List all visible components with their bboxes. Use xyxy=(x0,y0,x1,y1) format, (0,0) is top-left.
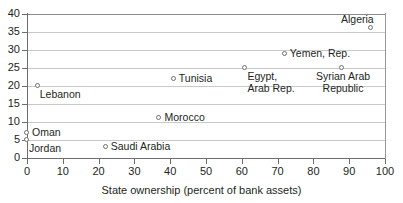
data-point[interactable] xyxy=(24,137,29,142)
x-tick-0 xyxy=(27,159,28,164)
gridline-y-25 xyxy=(27,68,385,69)
data-point[interactable] xyxy=(35,83,40,88)
y-tick-label-10: 10 xyxy=(8,116,20,127)
x-tick-label-0: 0 xyxy=(24,166,30,177)
y-tick-label-40: 40 xyxy=(8,8,20,19)
x-tick-label-10: 10 xyxy=(57,166,69,177)
y-tick-label-5: 5 xyxy=(14,134,20,145)
y-tick-15 xyxy=(22,104,27,105)
gridline-y-20 xyxy=(27,86,385,87)
y-tick-label-25: 25 xyxy=(8,62,20,73)
y-tick-30 xyxy=(22,50,27,51)
x-tick-100 xyxy=(385,159,386,164)
gridline-y-30 xyxy=(27,50,385,51)
data-point[interactable] xyxy=(103,144,108,149)
x-tick-label-70: 70 xyxy=(271,166,283,177)
x-tick-label-60: 60 xyxy=(236,166,248,177)
y-tick-label-15: 15 xyxy=(8,98,20,109)
x-tick-60 xyxy=(242,159,243,164)
data-point[interactable] xyxy=(282,51,287,56)
x-tick-80 xyxy=(313,159,314,164)
x-tick-label-90: 90 xyxy=(343,166,355,177)
data-point[interactable] xyxy=(339,65,344,70)
x-tick-40 xyxy=(170,159,171,164)
x-tick-label-80: 80 xyxy=(307,166,319,177)
gridline-y-40 xyxy=(27,14,385,15)
plot-right-border xyxy=(385,13,386,159)
gridline-y-15 xyxy=(27,104,385,105)
x-tick-30 xyxy=(134,159,135,164)
y-tick-label-35: 35 xyxy=(8,26,20,37)
x-tick-label-40: 40 xyxy=(164,166,176,177)
y-tick-label-20: 20 xyxy=(8,80,20,91)
y-tick-label-30: 30 xyxy=(8,44,20,55)
scatter-chart: 05101520253035400102030405060708090100Jo… xyxy=(0,0,403,203)
y-tick-35 xyxy=(22,32,27,33)
x-tick-label-30: 30 xyxy=(128,166,140,177)
x-tick-20 xyxy=(99,159,100,164)
y-tick-20 xyxy=(22,86,27,87)
x-tick-label-100: 100 xyxy=(376,166,394,177)
x-tick-50 xyxy=(206,159,207,164)
gridline-y-35 xyxy=(27,32,385,33)
x-tick-90 xyxy=(349,159,350,164)
data-point[interactable] xyxy=(171,76,176,81)
x-tick-label-50: 50 xyxy=(200,166,212,177)
data-point[interactable] xyxy=(24,130,29,135)
x-tick-label-20: 20 xyxy=(92,166,104,177)
gridline-y-5 xyxy=(27,140,385,141)
plot-area xyxy=(27,14,385,158)
x-tick-70 xyxy=(278,159,279,164)
x-axis-title: State ownership (percent of bank assets) xyxy=(0,184,403,196)
gridline-y-10 xyxy=(27,122,385,123)
y-tick-25 xyxy=(22,68,27,69)
y-tick-label-0: 0 xyxy=(14,152,20,163)
y-tick-10 xyxy=(22,122,27,123)
y-tick-40 xyxy=(22,14,27,15)
x-tick-10 xyxy=(63,159,64,164)
